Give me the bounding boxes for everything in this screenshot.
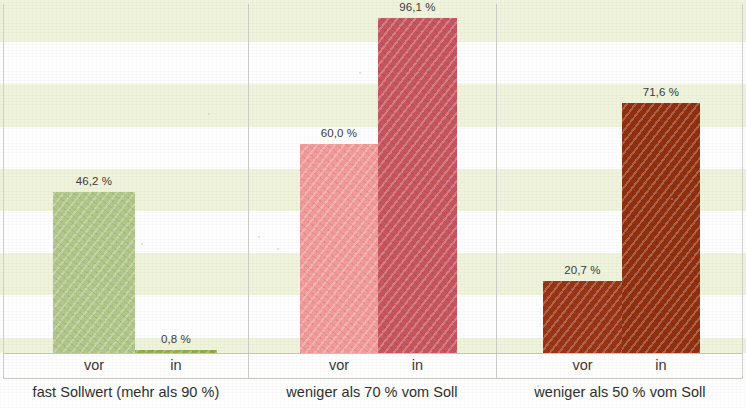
scan-speck: [359, 72, 361, 74]
scan-speck: [208, 113, 210, 115]
x-tick-label-vor: vor: [572, 357, 592, 373]
axis-row-rule: [496, 378, 743, 379]
axis-baseline: [496, 353, 743, 354]
panel-divider: [742, 4, 743, 378]
chart-panels: 46,2 %vor0,8 %infast Sollwert (mehr als …: [0, 0, 746, 408]
bar-vor-panel3: [543, 281, 622, 353]
panel-divider: [496, 4, 497, 378]
bar-in-panel3: [622, 103, 700, 353]
panel-caption: weniger als 50 % vom Soll: [534, 384, 705, 400]
x-tick-label-in: in: [655, 357, 666, 373]
scan-speck: [277, 248, 279, 250]
bar-texture-secondary: [622, 103, 700, 353]
scan-speck: [537, 385, 539, 387]
bar-texture-secondary: [543, 281, 622, 353]
bar-value-label: 71,6 %: [643, 86, 679, 98]
chart-panel-3: 20,7 %vor71,6 %inweniger als 50 % vom So…: [0, 0, 746, 408]
bar-value-label: 20,7 %: [564, 264, 600, 276]
scan-speck: [258, 236, 260, 238]
scan-speck: [141, 243, 143, 245]
bar-chart: 46,2 %vor0,8 %infast Sollwert (mehr als …: [0, 0, 746, 408]
scan-speck: [671, 198, 673, 200]
